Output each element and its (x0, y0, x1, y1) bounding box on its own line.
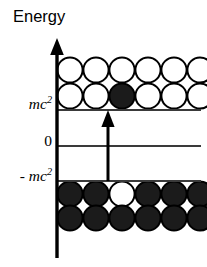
state-circle-filled (187, 205, 207, 230)
state-circle-filled (187, 181, 207, 206)
positive-energy-band-row-1 (57, 83, 207, 108)
state-circle-empty (187, 83, 207, 108)
state-circle-filled (135, 181, 160, 206)
state-circle-filled (83, 205, 108, 230)
positive-energy-band-row-0 (57, 57, 207, 82)
state-circle-filled (57, 205, 82, 230)
state-circle-empty (109, 57, 134, 82)
state-circle-empty (57, 83, 82, 108)
state-circle-empty (161, 83, 186, 108)
state-circle-filled (83, 181, 108, 206)
state-circle-empty (135, 57, 160, 82)
energy-axis-arrowhead-icon (50, 38, 64, 55)
state-circle-empty (83, 57, 108, 82)
state-circle-empty (83, 83, 108, 108)
state-circle-filled (135, 205, 160, 230)
energy-level-diagram: Energy mc2 0 - mc2 (0, 0, 207, 267)
negative-energy-sea-row-1 (57, 205, 207, 230)
state-circle-empty (161, 57, 186, 82)
state-circle-filled (161, 181, 186, 206)
state-circle-filled (57, 181, 82, 206)
state-circle-filled (109, 205, 134, 230)
state-circle-empty (57, 57, 82, 82)
state-circle-empty (187, 57, 207, 82)
diagram-canvas (0, 0, 207, 267)
negative-energy-sea-row-0 (57, 181, 207, 206)
state-circle-filled-excited-electron (109, 83, 134, 108)
state-circle-empty (135, 83, 160, 108)
state-circle-filled (161, 205, 186, 230)
pair-creation-arrowhead-icon (101, 110, 114, 127)
state-circle-empty-hole (109, 181, 134, 206)
